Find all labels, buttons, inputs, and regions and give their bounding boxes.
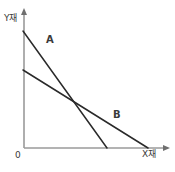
budget-line-b	[23, 70, 148, 148]
curve-label-b: B	[113, 110, 121, 120]
budget-line-a	[23, 31, 107, 148]
y-axis-arrow-icon	[21, 8, 27, 15]
budget-line-figure: Y재 X재 0 A B	[0, 0, 175, 172]
origin-label: 0	[15, 151, 21, 160]
x-axis-arrow-icon	[163, 145, 170, 151]
y-axis-label: Y재	[4, 14, 18, 23]
curve-label-a: A	[46, 35, 54, 45]
x-axis-label: X재	[142, 150, 156, 159]
figure-canvas	[0, 0, 175, 172]
